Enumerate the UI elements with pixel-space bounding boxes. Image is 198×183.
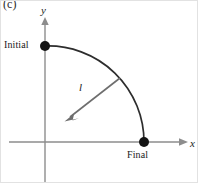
- displacement-vector-shaft: [70, 78, 120, 117]
- figure-canvas: [1, 1, 198, 183]
- trajectory-arc: [45, 46, 144, 142]
- x-axis-label: x: [190, 138, 195, 149]
- final-point-label: Final: [127, 150, 148, 160]
- y-axis-arrowhead: [41, 17, 48, 25]
- x-axis-arrowhead: [179, 138, 188, 146]
- initial-point-label: Initial: [4, 40, 29, 50]
- panel-label: (c): [3, 0, 17, 10]
- y-axis-label: y: [41, 5, 46, 16]
- point-marker-initial: [40, 41, 50, 51]
- physics-figure-panel: (c) y x Initial Final l: [0, 0, 198, 183]
- displacement-vector-label: l: [79, 82, 82, 93]
- point-marker-final: [139, 137, 149, 147]
